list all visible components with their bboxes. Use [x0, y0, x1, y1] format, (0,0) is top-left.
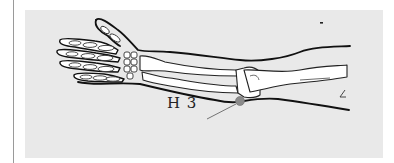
acupoint-marker	[236, 97, 245, 106]
angle-mark-icon	[340, 90, 346, 97]
dash-mark	[320, 22, 323, 24]
arm-outline	[78, 19, 350, 110]
humerus-bone	[244, 65, 347, 92]
acupoint-label: H 3	[167, 94, 197, 112]
arm-skeleton-illustration	[0, 0, 394, 163]
leader-line	[207, 104, 236, 119]
